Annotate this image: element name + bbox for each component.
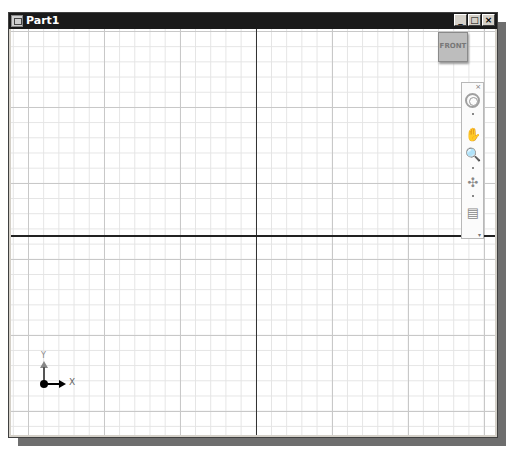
orbit-icon[interactable]: ✣ [465,175,481,191]
vertical-axis-line [256,29,257,435]
window-controls: _ □ × [454,14,495,26]
look-at-icon[interactable]: ▤ [465,205,481,221]
x-arrow-icon [59,380,66,388]
zoom-icon[interactable]: 🔍 [465,147,481,163]
orbit-dropdown-icon[interactable] [472,195,474,197]
y-axis-label: Y [41,351,46,360]
title-bar[interactable]: Part1 _ □ × [9,13,497,29]
horizontal-axis-line [11,235,495,237]
steering-wheel-icon[interactable] [465,93,480,108]
document-icon[interactable] [11,15,23,27]
x-axis-label: X [69,377,75,387]
pan-icon[interactable]: ✋ [465,127,481,143]
navigation-bar: × ✋ 🔍 ✣ ▤ ▾ [461,82,484,239]
navbar-close-icon[interactable]: × [475,83,481,91]
x-axis-line [46,383,60,385]
minimize-button[interactable]: _ [454,14,467,26]
window-title: Part1 [26,14,60,28]
viewcube-face-label: FRONT [439,42,467,50]
customize-navbar-icon[interactable]: ▾ [478,231,481,238]
viewcube[interactable]: FRONT [438,32,468,62]
maximize-button[interactable]: □ [468,14,481,26]
y-axis-line [43,367,45,381]
zoom-dropdown-icon[interactable] [472,167,474,169]
steering-wheel-dropdown-icon[interactable] [472,113,474,115]
close-button[interactable]: × [482,14,495,26]
coordinate-triad: Y X [36,355,86,395]
